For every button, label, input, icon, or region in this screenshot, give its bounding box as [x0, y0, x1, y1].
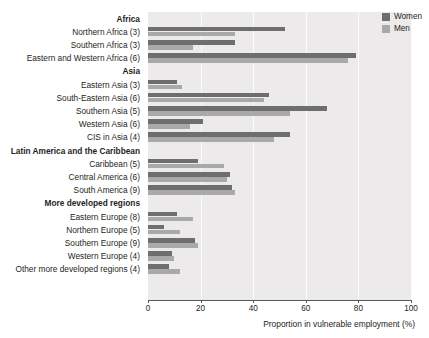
bar-women-eastern-and-western-africa-6	[148, 53, 356, 58]
bar-men-northern-europe-5	[148, 230, 180, 235]
x-tick-label-60: 60	[301, 304, 310, 313]
row-label-western-asia-6: Western Asia (6)	[0, 118, 144, 131]
bar-women-eastern-europe-8	[148, 212, 177, 217]
legend-swatch-men	[382, 25, 390, 33]
x-tick-40	[253, 300, 254, 303]
row-bars	[148, 157, 411, 170]
bar-men-south-america-9	[148, 190, 235, 195]
bar-women-northern-europe-5	[148, 225, 164, 230]
row-label-southern-asia-5: Southern Asia (5)	[0, 104, 144, 117]
x-tick-label-80: 80	[354, 304, 363, 313]
row-bars	[148, 170, 411, 183]
bar-women-southern-asia-5	[148, 106, 327, 111]
bar-men-southern-africa-3	[148, 45, 193, 50]
group-header-row: Latin America and the Caribbean	[0, 144, 429, 157]
data-row: South America (9)	[0, 184, 429, 197]
bar-women-other-more-developed-regions-4	[148, 264, 169, 269]
bar-women-central-america-6	[148, 172, 230, 177]
group-label-latin-america-and-the-caribbean: Latin America and the Caribbean	[0, 144, 144, 157]
row-bars	[148, 91, 411, 104]
row-label-cis-in-asia-4: CIS in Asia (4)	[0, 131, 144, 144]
data-row: South-Eastern Asia (6)	[0, 91, 429, 104]
row-bars	[148, 25, 411, 38]
row-label-south-america-9: South America (9)	[0, 184, 144, 197]
group-label-africa: Africa	[0, 12, 144, 25]
group-header-row: Africa	[0, 12, 429, 25]
row-bars	[148, 131, 411, 144]
group-header-row: More developed regions	[0, 197, 429, 210]
bar-women-caribbean-5	[148, 159, 198, 164]
x-tick-label-40: 40	[249, 304, 258, 313]
row-label-northern-europe-5: Northern Europe (5)	[0, 223, 144, 236]
x-axis-line	[148, 300, 412, 301]
row-label-southern-europe-9: Southern Europe (9)	[0, 236, 144, 249]
data-row: Southern Asia (5)	[0, 104, 429, 117]
data-row: Southern Africa (3)	[0, 38, 429, 51]
data-row: Eastern Europe (8)	[0, 210, 429, 223]
row-bars	[148, 104, 411, 117]
group-header-row: Asia	[0, 65, 429, 78]
bar-women-cis-in-asia-4	[148, 132, 290, 137]
row-bars	[148, 250, 411, 263]
row-label-south-eastern-asia-6: South-Eastern Asia (6)	[0, 91, 144, 104]
row-bars	[148, 78, 411, 91]
row-label-eastern-europe-8: Eastern Europe (8)	[0, 210, 144, 223]
legend-item-men: Men	[382, 24, 422, 33]
bar-women-south-eastern-asia-6	[148, 93, 269, 98]
bar-men-central-america-6	[148, 177, 227, 182]
bar-men-south-eastern-asia-6	[148, 98, 264, 103]
x-tick-label-0: 0	[146, 304, 151, 313]
bar-men-eastern-europe-8	[148, 217, 193, 222]
x-tick-60	[306, 300, 307, 303]
row-label-central-america-6: Central America (6)	[0, 170, 144, 183]
bar-men-cis-in-asia-4	[148, 137, 274, 142]
data-row: Caribbean (5)	[0, 157, 429, 170]
bar-women-western-europe-4	[148, 251, 172, 256]
row-label-northern-africa-3: Northern Africa (3)	[0, 25, 144, 38]
row-bars	[148, 210, 411, 223]
bar-men-other-more-developed-regions-4	[148, 269, 180, 274]
data-row: Western Asia (6)	[0, 118, 429, 131]
legend-item-women: Women	[382, 12, 422, 21]
bar-men-eastern-asia-3	[148, 85, 182, 90]
row-bars	[148, 12, 411, 25]
x-axis-title: Proportion in vulnerable employment (%)	[0, 319, 423, 329]
bar-women-eastern-asia-3	[148, 80, 177, 85]
bar-men-eastern-and-western-africa-6	[148, 58, 348, 63]
vulnerable-employment-chart: Women Men AfricaNorthern Africa (3)South…	[0, 0, 429, 338]
x-tick-20	[201, 300, 202, 303]
data-row: Southern Europe (9)	[0, 236, 429, 249]
chart-legend: Women Men	[382, 12, 422, 33]
x-tick-80	[358, 300, 359, 303]
bar-men-western-asia-6	[148, 124, 190, 129]
row-bars	[148, 52, 411, 65]
row-bars	[148, 223, 411, 236]
group-label-more-developed-regions: More developed regions	[0, 197, 144, 210]
legend-swatch-women	[382, 13, 390, 21]
data-row: Eastern and Western Africa (6)	[0, 52, 429, 65]
data-row: Central America (6)	[0, 170, 429, 183]
data-row: Other more developed regions (4)	[0, 263, 429, 276]
data-row: Northern Europe (5)	[0, 223, 429, 236]
row-bars	[148, 236, 411, 249]
data-row: CIS in Asia (4)	[0, 131, 429, 144]
bar-men-western-europe-4	[148, 256, 174, 261]
group-label-asia: Asia	[0, 65, 144, 78]
row-label-eastern-asia-3: Eastern Asia (3)	[0, 78, 144, 91]
bar-women-western-asia-6	[148, 119, 203, 124]
chart-rows: AfricaNorthern Africa (3)Southern Africa…	[0, 12, 429, 300]
bar-women-south-america-9	[148, 185, 232, 190]
data-row: Northern Africa (3)	[0, 25, 429, 38]
legend-label-women: Women	[394, 12, 422, 21]
row-label-caribbean-5: Caribbean (5)	[0, 157, 144, 170]
row-bars	[148, 263, 411, 276]
row-bars	[148, 184, 411, 197]
legend-label-men: Men	[394, 24, 410, 33]
x-tick-label-20: 20	[196, 304, 205, 313]
row-label-southern-africa-3: Southern Africa (3)	[0, 38, 144, 51]
row-label-other-more-developed-regions-4: Other more developed regions (4)	[0, 263, 144, 276]
row-bars	[148, 38, 411, 51]
data-row: Western Europe (4)	[0, 250, 429, 263]
row-bars	[148, 65, 411, 78]
bar-men-northern-africa-3	[148, 32, 235, 37]
